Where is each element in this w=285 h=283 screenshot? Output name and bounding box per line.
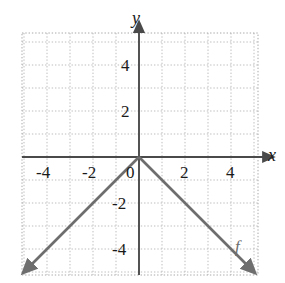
coordinate-plane-svg [0,0,285,283]
y-tick-label-pos4: 4 [121,57,130,74]
y-axis-label: y [132,9,140,27]
x-axis-label: x [268,146,276,164]
x-tick-label-pos2: 2 [180,164,189,181]
graph-figure: -4 -2 0 2 4 4 2 -2 -4 y x f [0,0,285,283]
y-tick-label-neg4: -4 [112,241,126,258]
y-tick-label-pos2: 2 [121,103,130,120]
x-tick-label-neg2: -2 [82,164,96,181]
x-tick-label-zero: 0 [126,164,135,181]
x-tick-label-neg4: -4 [36,164,50,181]
function-label-f: f [235,238,240,255]
x-tick-label-pos4: 4 [226,164,235,181]
y-tick-label-neg2: -2 [112,195,126,212]
